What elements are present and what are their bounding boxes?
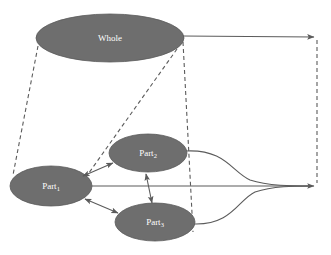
node-part1[interactable]: Part1 xyxy=(10,166,92,206)
node-label-whole: Whole xyxy=(98,33,122,43)
node-part3[interactable]: Part3 xyxy=(115,203,195,241)
double-arrow-part2-part3 xyxy=(146,174,152,203)
curve-edge-part3-to-right xyxy=(194,186,312,224)
node-label-whole-base: Whole xyxy=(98,33,122,43)
node-label-part3-sub: 3 xyxy=(161,221,164,228)
node-part2[interactable]: Part2 xyxy=(109,134,187,172)
node-label-part1-sub: 1 xyxy=(57,185,60,192)
curve-edge-part2-to-right xyxy=(186,151,312,186)
whole-part-diagram: Whole Part1 Part2 Part3 xyxy=(0,0,331,255)
dashed-edge-whole-right-to-part3 xyxy=(183,42,193,232)
dashed-edge-whole-left-to-part1 xyxy=(13,46,38,175)
node-label-part2-sub: 2 xyxy=(154,152,157,159)
curved-outgoing-edges xyxy=(186,151,312,224)
double-arrow-part1-part2 xyxy=(83,163,113,176)
node-label-part2-base: Part xyxy=(139,148,154,158)
node-whole[interactable]: Whole xyxy=(36,14,184,62)
solid-edge-whole-to-right xyxy=(182,36,314,37)
double-arrow-part1-part3 xyxy=(85,199,118,213)
diagram-canvas: Whole Part1 Part2 Part3 xyxy=(0,0,331,255)
node-label-part3-base: Part xyxy=(146,217,161,227)
node-label-part1-base: Part xyxy=(42,181,57,191)
